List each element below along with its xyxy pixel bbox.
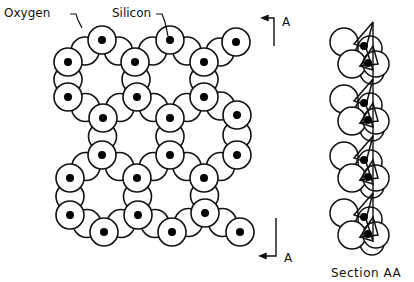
silicon-atom [54,83,82,111]
silicon-atom [121,48,149,76]
silicon-atom [156,26,184,54]
silicon-atom [190,164,218,192]
silicon-atom [56,164,84,192]
section-marker-bottom [260,218,276,259]
silicon-atom [191,199,219,227]
silicon-atom [222,28,250,56]
section-unit [330,136,389,198]
silicon-atom [88,26,116,54]
section-marker-top-label: A [282,15,291,29]
silicon-atom [156,104,184,132]
silicate-sheet-diagram: Oxygen Silicon A A Section AA [0,0,414,282]
section-aa-view [330,22,389,255]
silicon-atom [223,141,251,169]
silicon-atom [88,141,116,169]
silicon-atom [90,218,118,246]
section-caption: Section AA [331,266,401,280]
silicon-atom [123,164,151,192]
oxygen-atoms-layer [54,37,251,238]
silicon-atom [156,141,184,169]
silicon-atom [54,48,82,76]
oxygen-leader-line [70,14,82,28]
section-unit [330,22,389,84]
silicon-label: Silicon [112,6,151,20]
silicon-atom [56,201,84,229]
section-unit [330,79,389,141]
silicon-atom [124,201,152,229]
silicon-atom [190,48,218,76]
oxygen-label: Oxygen [4,6,50,20]
section-marker-bottom-label: A [284,251,293,265]
silicon-atom [223,101,251,129]
silicon-atom [226,218,254,246]
silicon-atom [123,83,151,111]
silicon-atom [89,104,117,132]
silicon-atom [190,83,218,111]
section-unit [330,193,389,255]
section-marker-top [262,16,274,47]
silicon-atom [158,218,186,246]
